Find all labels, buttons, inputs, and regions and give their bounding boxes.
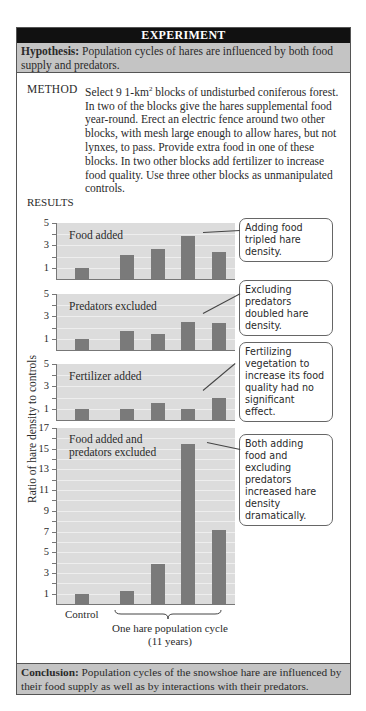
bar-cycle-3 xyxy=(181,444,195,604)
callout-food-and-predators: Both adding food and excluding predators… xyxy=(239,434,333,526)
gridline xyxy=(57,459,235,460)
y-tick xyxy=(52,511,57,512)
chart-food-and-predators-excluded: 1357911131517Food added and predators ex… xyxy=(56,428,235,605)
y-tick xyxy=(52,245,57,246)
y-tick-label: 5 xyxy=(35,359,49,369)
gridline xyxy=(57,573,235,574)
method-text-part2: blocks of undisturbed coniferous forest.… xyxy=(85,86,338,195)
gridline xyxy=(57,542,235,543)
y-tick xyxy=(52,257,57,258)
bar-cycle-2 xyxy=(151,334,165,350)
y-tick xyxy=(52,459,57,460)
chart-title: Food added and predators excluded xyxy=(69,433,179,459)
bar-cycle-2 xyxy=(151,403,165,420)
y-tick xyxy=(52,521,57,522)
gridline xyxy=(57,532,235,533)
y-tick xyxy=(52,398,57,399)
bar-cycle-1 xyxy=(120,591,134,604)
y-tick-label: 1 xyxy=(35,334,49,344)
bar-cycle-4 xyxy=(212,252,226,279)
conclusion-label: Conclusion: xyxy=(21,666,79,678)
y-tick xyxy=(52,552,57,553)
gridline xyxy=(57,328,235,329)
y-tick-label: 5 xyxy=(35,289,49,299)
bar-control xyxy=(75,339,89,350)
gridline xyxy=(57,583,235,584)
y-tick xyxy=(52,480,57,481)
y-tick xyxy=(52,223,57,224)
callout-food-added: Adding food tripled hare density. xyxy=(239,218,333,262)
y-tick-label: 9 xyxy=(35,506,49,516)
chart-title: Predators excluded xyxy=(69,300,157,313)
y-tick-label: 3 xyxy=(35,240,49,250)
gridline xyxy=(57,521,235,522)
y-tick xyxy=(52,294,57,295)
y-tick xyxy=(52,328,57,329)
y-tick xyxy=(52,500,57,501)
chart-title: Food added xyxy=(69,229,123,242)
y-tick xyxy=(52,364,57,365)
y-tick-label: 5 xyxy=(35,547,49,557)
chart-fertilizer-added: 135Fertilizer added xyxy=(56,364,235,421)
y-tick-label: 5 xyxy=(35,218,49,228)
bar-cycle-3 xyxy=(181,409,195,420)
bar-cycle-2 xyxy=(151,249,165,279)
x-label-cycle: One hare population cycle xyxy=(105,622,235,634)
callout-predators-excluded: Excluding predators doubled hare density… xyxy=(239,280,333,336)
bar-cycle-3 xyxy=(181,322,195,350)
y-tick xyxy=(52,375,57,376)
y-tick-label: 15 xyxy=(35,444,49,454)
experiment-header: EXPERIMENT xyxy=(17,28,350,43)
y-tick xyxy=(52,438,57,439)
x-label-years: (11 years) xyxy=(105,635,235,647)
gridline xyxy=(57,245,235,246)
y-tick xyxy=(52,339,57,340)
y-tick xyxy=(52,428,57,429)
bar-cycle-1 xyxy=(120,409,134,420)
gridline xyxy=(57,490,235,491)
y-tick-label: 7 xyxy=(35,527,49,537)
y-tick-label: 3 xyxy=(35,381,49,391)
x-label-control: Control xyxy=(65,608,99,620)
gridline xyxy=(57,552,235,553)
bar-cycle-4 xyxy=(212,323,226,350)
chart-predators-excluded: 135Predators excluded xyxy=(56,294,235,351)
y-tick xyxy=(52,449,57,450)
hypothesis-box: Hypothesis: Population cycles of hares a… xyxy=(17,43,350,73)
y-tick xyxy=(52,563,57,564)
y-tick-label: 13 xyxy=(35,464,49,474)
y-tick-label: 1 xyxy=(35,404,49,414)
method-label: METHOD xyxy=(27,83,77,95)
bar-cycle-1 xyxy=(120,331,134,350)
y-tick xyxy=(52,268,57,269)
method-text-part1: Select 9 1-km xyxy=(85,86,149,98)
bar-cycle-2 xyxy=(151,564,165,604)
gridline xyxy=(57,398,235,399)
y-tick-label: 1 xyxy=(35,263,49,273)
cycle-brace-icon xyxy=(113,608,223,620)
gridline xyxy=(57,500,235,501)
y-tick xyxy=(52,305,57,306)
gridline xyxy=(57,480,235,481)
y-tick xyxy=(52,386,57,387)
experiment-figure: EXPERIMENT Hypothesis: Population cycles… xyxy=(16,27,351,695)
y-tick xyxy=(52,490,57,491)
y-tick-label: 3 xyxy=(35,568,49,578)
y-tick-label: 11 xyxy=(35,485,49,495)
gridline xyxy=(57,563,235,564)
gridline xyxy=(57,511,235,512)
y-tick xyxy=(52,409,57,410)
y-tick-label: 17 xyxy=(35,423,49,433)
bar-cycle-3 xyxy=(181,236,195,279)
bar-cycle-1 xyxy=(120,255,134,279)
chart-title: Fertilizer added xyxy=(69,370,141,383)
y-tick xyxy=(52,532,57,533)
bar-cycle-4 xyxy=(212,398,226,420)
hypothesis-label: Hypothesis: xyxy=(21,45,79,57)
y-tick xyxy=(52,316,57,317)
gridline xyxy=(57,469,235,470)
bar-control xyxy=(75,268,89,279)
gridline xyxy=(57,316,235,317)
method-text: Select 9 1-km2 blocks of undisturbed con… xyxy=(85,83,347,196)
results-label: RESULTS xyxy=(27,196,74,208)
